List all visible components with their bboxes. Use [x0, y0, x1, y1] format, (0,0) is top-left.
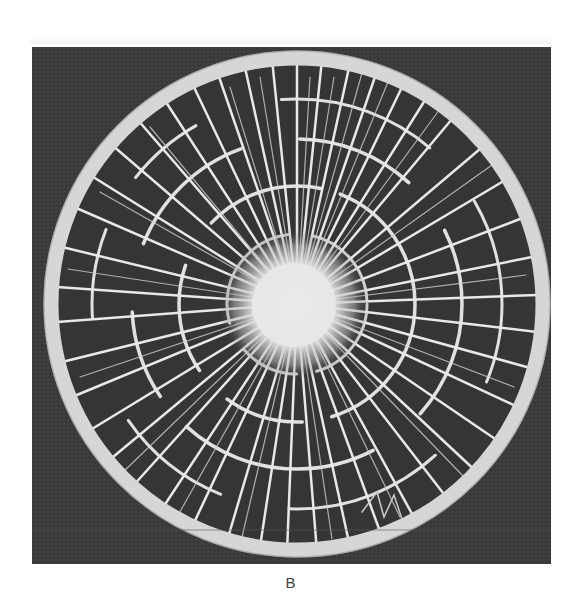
- figure-caption: B: [0, 574, 581, 591]
- shattered-disc-graphic: [32, 47, 551, 564]
- photo-top-edge: [30, 36, 551, 44]
- shattered-disc-photo: [32, 47, 551, 564]
